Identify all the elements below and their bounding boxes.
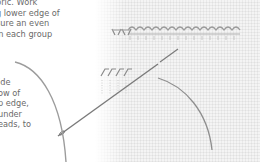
text-line: sure an even: [0, 18, 60, 29]
text-line: p edge,: [0, 98, 31, 109]
document-page: bric. Work g lower edge of sure an even …: [0, 0, 260, 162]
text-line: bric. Work: [0, 0, 60, 8]
text-line: under: [0, 109, 31, 120]
text-line: ide: [0, 77, 31, 88]
loose-cross-stitches: [112, 29, 131, 35]
slanted-stitches: [101, 69, 132, 76]
text-line: eads, to: [0, 119, 31, 130]
thread-group-shadows: [130, 36, 234, 40]
instruction-text-top: bric. Work g lower edge of sure an even …: [0, 0, 60, 39]
text-line: g lower edge of: [0, 8, 60, 19]
pulled-thread-shadows: [102, 80, 126, 94]
instruction-text-bottom: ide ow of p edge, under eads, to: [0, 77, 31, 130]
text-line: ow of: [0, 88, 31, 99]
thread-right: [158, 78, 212, 150]
thread-groups: [128, 27, 240, 34]
needle: [58, 49, 178, 136]
text-line: in each group: [0, 29, 60, 40]
